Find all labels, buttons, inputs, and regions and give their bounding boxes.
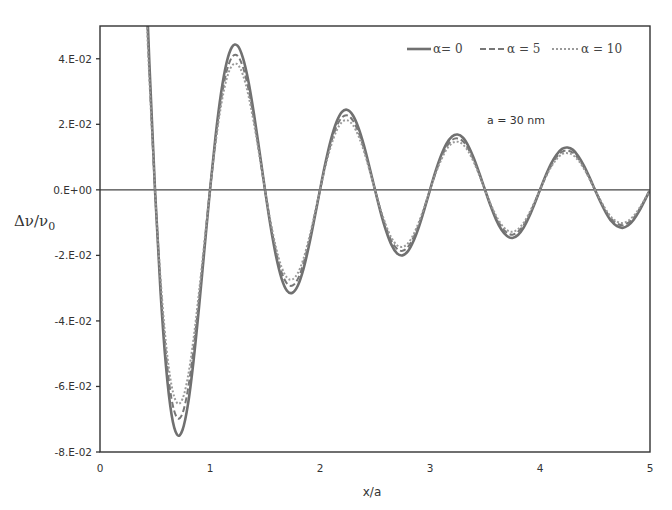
- legend-label-alpha-10: α = 10: [581, 42, 622, 56]
- y-axis-title: Δν/ν0: [14, 212, 55, 233]
- series-line-solid: [144, 0, 650, 436]
- y-tick-label: -8.E-02: [54, 446, 92, 458]
- y-tick-label: 4.E-02: [58, 53, 92, 65]
- x-axis-title: x/a: [363, 485, 382, 499]
- x-tick-label: 0: [97, 462, 104, 474]
- y-tick-label: 0.E+00: [53, 184, 92, 196]
- y-tick-label: 2.E-02: [58, 118, 92, 130]
- chart: 4.E-022.E-020.E+00-2.E-02-4.E-02-6.E-02-…: [0, 0, 672, 510]
- series-line-dotted: [144, 0, 650, 404]
- x-tick-label: 1: [207, 462, 214, 474]
- x-tick-label: 3: [427, 462, 434, 474]
- y-tick-label: -6.E-02: [54, 380, 92, 392]
- y-axis-ticks: 4.E-022.E-020.E+00-2.E-02-4.E-02-6.E-02-…: [53, 53, 100, 458]
- legend-label-alpha-0: α= 0: [433, 42, 463, 56]
- annotation-lattice-constant: a = 30 nm: [487, 114, 545, 127]
- x-tick-label: 5: [647, 462, 654, 474]
- plot-frame: [100, 26, 650, 452]
- y-tick-label: -2.E-02: [54, 249, 92, 261]
- series-line-dashed: [144, 0, 650, 419]
- y-tick-label: -4.E-02: [54, 315, 92, 327]
- x-tick-label: 4: [537, 462, 544, 474]
- legend: α= 0 α = 5 α = 10: [407, 42, 622, 56]
- legend-label-alpha-5: α = 5: [507, 42, 540, 56]
- x-axis-ticks: 012345: [97, 462, 654, 474]
- series-group: [144, 0, 650, 436]
- x-tick-label: 2: [317, 462, 324, 474]
